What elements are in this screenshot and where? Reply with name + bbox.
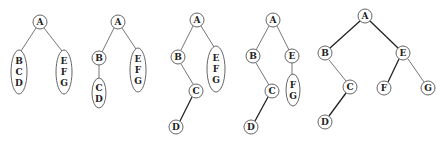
node-label: A	[114, 17, 123, 27]
group-label: F	[61, 67, 68, 77]
tree-node-F: F	[377, 81, 391, 95]
tree-step-5: ABECFGD	[318, 9, 435, 129]
node-label: D	[321, 117, 329, 127]
node-label: E	[400, 48, 407, 58]
group-label: C	[95, 83, 102, 93]
node-label: A	[269, 15, 278, 25]
tree-node-A: A	[266, 13, 280, 27]
tree-node-A: A	[190, 13, 204, 27]
group-label: G	[289, 91, 297, 101]
group-label: C	[15, 67, 22, 77]
group-label: G	[60, 78, 68, 88]
tree-diagram: BCDEFGACDEFGABEFGABCDFGABECDABECFGD	[0, 0, 446, 145]
tree-node-D: D	[169, 120, 183, 134]
tree-edge	[329, 93, 346, 116]
group-label: G	[212, 75, 220, 85]
tree-node-A: A	[111, 15, 125, 29]
tree-node-B: B	[92, 51, 106, 65]
tree-node-D: D	[318, 115, 332, 129]
tree-node-D: D	[244, 120, 258, 134]
tree-node-B: B	[318, 46, 332, 60]
group-label: F	[290, 80, 297, 90]
node-label: A	[361, 11, 370, 21]
node-label: C	[192, 86, 199, 96]
tree-edge	[370, 21, 398, 48]
node-label: F	[381, 83, 388, 93]
node-label: D	[247, 122, 255, 132]
tree-step-4: FGABECD	[244, 13, 300, 134]
subtree-group: FG	[286, 74, 300, 106]
tree-edge	[408, 59, 424, 82]
tree-node-E: E	[396, 46, 410, 60]
tree-step-1: BCDEFGA	[11, 15, 72, 94]
tree-edge	[180, 97, 192, 121]
tree-node-A: A	[33, 15, 47, 29]
tree-node-B: B	[171, 50, 185, 64]
tree-step-2: CDEFGAB	[92, 15, 146, 108]
tree-node-E: E	[285, 49, 299, 63]
subtree-group: BCD	[11, 50, 27, 94]
group-label: E	[213, 53, 220, 63]
node-label: B	[249, 51, 257, 61]
tree-edge	[102, 28, 114, 52]
node-label: A	[36, 17, 45, 27]
node-label: E	[289, 51, 296, 61]
tree-edge	[388, 59, 399, 82]
tree-node-B: B	[246, 49, 260, 63]
node-label: B	[174, 52, 182, 62]
group-label: E	[135, 54, 142, 64]
subtree-group: EFG	[130, 48, 146, 92]
tree-edge	[122, 28, 136, 49]
group-label: G	[134, 76, 142, 86]
tree-edge	[255, 97, 268, 121]
node-label: G	[424, 83, 432, 93]
tree-edge	[181, 64, 193, 84]
subtree-group: CD	[92, 78, 106, 108]
tree-edge	[277, 26, 289, 50]
tree-edge	[256, 26, 269, 50]
tree-node-G: G	[421, 81, 435, 95]
node-label: D	[172, 122, 180, 132]
tree-edge	[256, 63, 269, 85]
tree-edge	[329, 60, 346, 81]
subtree-group: EFG	[207, 46, 225, 92]
tree-edge	[21, 28, 36, 51]
group-label: F	[135, 65, 142, 75]
tree-step-3: EFGABCD	[169, 13, 225, 134]
group-label: E	[61, 56, 68, 66]
node-label: B	[95, 53, 103, 63]
tree-node-C: C	[265, 84, 279, 98]
tree-edge	[44, 28, 62, 51]
tree-edge	[181, 26, 193, 50]
group-label: F	[213, 64, 220, 74]
group-label: D	[15, 78, 23, 88]
node-label: C	[346, 82, 353, 92]
node-label: C	[268, 86, 275, 96]
tree-node-C: C	[189, 84, 203, 98]
group-label: D	[95, 94, 103, 104]
group-label: B	[15, 56, 23, 66]
tree-node-C: C	[343, 80, 357, 94]
node-label: A	[193, 15, 202, 25]
tree-node-A: A	[358, 9, 372, 23]
subtree-group: EFG	[56, 50, 72, 94]
tree-edge	[201, 26, 214, 47]
tree-edge	[330, 21, 360, 48]
node-label: B	[321, 48, 329, 58]
